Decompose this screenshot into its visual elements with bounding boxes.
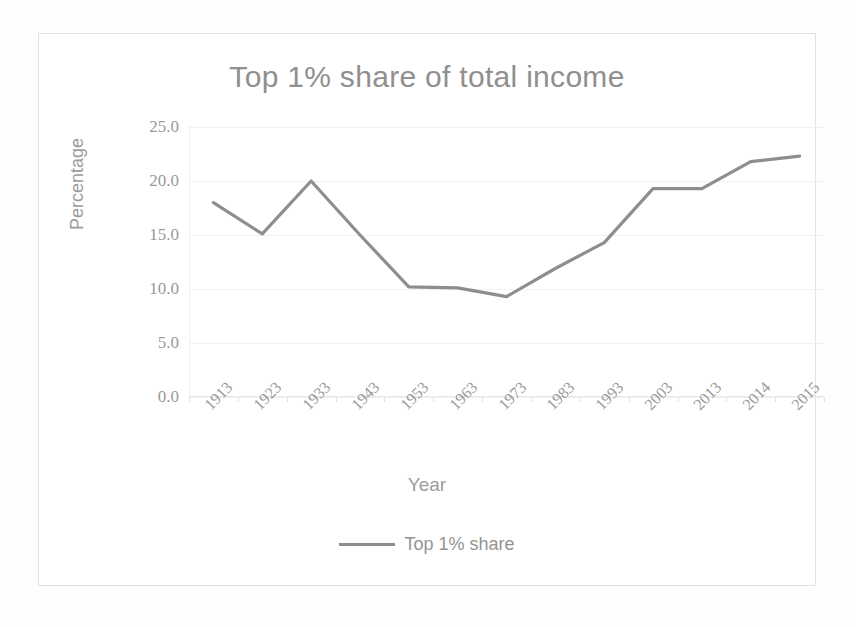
- chart-legend: Top 1% share: [39, 534, 815, 555]
- legend-swatch-top-1-percent-share: [339, 543, 395, 546]
- x-axis-tick-mark: [824, 397, 825, 402]
- y-axis-tick-label: 5.0: [158, 333, 179, 353]
- plot-area: [189, 127, 824, 397]
- y-axis-tick-label: 10.0: [149, 279, 179, 299]
- y-axis-tick-label: 0.0: [158, 387, 179, 407]
- chart-card: Top 1% share of total income Percentage …: [38, 33, 816, 586]
- chart-title: Top 1% share of total income: [39, 60, 815, 94]
- x-axis-title: Year: [39, 474, 815, 496]
- y-axis-tick-labels: 25.020.015.010.05.00.0: [123, 127, 179, 397]
- y-axis-tick-label: 20.0: [149, 171, 179, 191]
- x-axis-tick-labels: 1913192319331943195319631973198319932003…: [189, 401, 824, 461]
- y-axis-title: Percentage: [67, 138, 88, 230]
- legend-label-top-1-percent-share: Top 1% share: [404, 534, 514, 555]
- series-line-top-1-percent-share: [189, 127, 824, 397]
- y-axis-tick-label: 25.0: [149, 117, 179, 137]
- y-axis-tick-label: 15.0: [149, 225, 179, 245]
- chart-screenshot: Top 1% share of total income Percentage …: [0, 0, 856, 627]
